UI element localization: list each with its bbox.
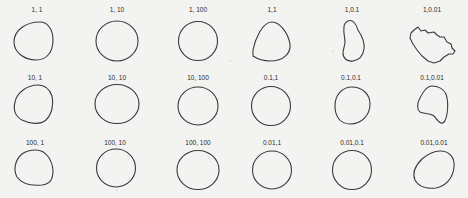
contour-shape <box>333 151 372 190</box>
cell-label: 10, 1 <box>28 74 43 81</box>
contour-shape <box>177 151 219 190</box>
contour-shape <box>343 21 364 62</box>
cell-r3-c2: 100, 10 <box>97 139 136 187</box>
cell-r2-c2: 10, 10 <box>95 74 139 124</box>
contour-shape <box>414 151 454 188</box>
speck-mark <box>117 190 118 191</box>
contour-shape <box>252 87 291 126</box>
cell-r2-c1: 10, 1 <box>14 74 52 123</box>
cell-r2-c5: 0.1,0.1 <box>335 74 370 124</box>
cell-label: 0.01,1 <box>263 139 281 146</box>
cell-r2-c6: 0.1,0.01 <box>418 74 448 123</box>
cell-label: 1,1 <box>267 6 276 13</box>
contour-shape <box>96 21 138 61</box>
cell-r3-c6: 0.01,0.01 <box>414 139 454 188</box>
contour-shape <box>14 22 53 60</box>
cell-r1-c2: 1, 10 <box>96 6 138 61</box>
cell-label: 1,0.01 <box>423 6 441 13</box>
contour-shape <box>253 151 292 189</box>
cell-label: 100, 10 <box>104 139 126 146</box>
cell-r1-c3: 1, 100 <box>179 6 218 61</box>
contour-shape <box>14 85 52 123</box>
cell-r1-c4: 1,1 <box>253 6 290 61</box>
contour-shape <box>179 22 218 61</box>
contour-shape <box>15 150 53 185</box>
contour-shape <box>178 87 218 125</box>
cell-label: 0.1,0.1 <box>341 74 361 81</box>
contour-shape <box>418 86 448 123</box>
contour-shape <box>97 149 136 187</box>
cell-label: 0.1,0.01 <box>420 74 444 81</box>
contour-shape <box>335 87 370 124</box>
cell-label: 100, 100 <box>185 139 211 146</box>
cell-r2-c3: 10, 100 <box>178 74 218 125</box>
cell-r3-c3: 100, 100 <box>177 139 219 190</box>
contour-shape <box>253 22 290 61</box>
cell-r1-c5: 1,0.1 <box>332 6 364 61</box>
cell-label: 10, 10 <box>108 74 126 81</box>
cell-label: 10, 100 <box>187 74 209 81</box>
cell-label: 0.01,0.1 <box>340 139 364 146</box>
cell-label: 0.1,1 <box>264 74 279 81</box>
speck-mark <box>332 50 333 51</box>
cell-label: 1, 100 <box>189 6 207 13</box>
cell-r3-c4: 0.01,1 <box>253 139 292 189</box>
contour-shape <box>95 85 139 124</box>
cell-r3-c1: 100, 1 <box>15 139 53 185</box>
cell-label: 0.01,0.01 <box>420 139 447 146</box>
cell-r1-c6: 1,0.01 <box>410 6 455 63</box>
cell-label: 1,0.1 <box>345 6 360 13</box>
speck-mark <box>230 61 231 62</box>
cell-label: 1, 1 <box>32 6 43 13</box>
cell-label: 100, 1 <box>26 139 44 146</box>
cell-r2-c4: 0.1,1 <box>252 74 291 126</box>
contour-shape <box>410 27 455 63</box>
contour-grid-figure: 1, 1 1, 10 1, 100 1,1 1,0.1 1,0.01 10, 1… <box>0 0 468 198</box>
cell-r1-c1: 1, 1 <box>14 6 53 60</box>
cell-label: 1, 10 <box>110 6 125 13</box>
cell-r3-c5: 0.01,0.1 <box>333 139 372 190</box>
